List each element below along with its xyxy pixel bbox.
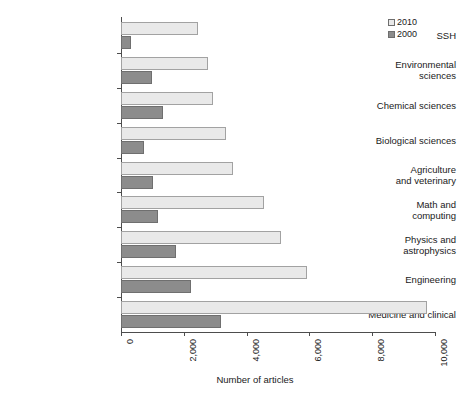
bar-2000-2 [121,71,152,84]
bar-2010-9 [121,301,427,314]
x-axis-line [121,332,435,333]
x-axis-tick-label-5: 8,000 [376,339,386,362]
bar-2010-4 [121,127,226,140]
bar-2010-3 [121,92,213,105]
x-axis-title: Number of articles [0,374,460,385]
bar-2010-7 [121,231,281,244]
x-axis-tick-5 [372,332,373,336]
x-axis-tick-label-1: 0 [125,339,135,344]
bar-2000-9 [121,315,221,328]
bar-2000-5 [121,176,153,189]
bar-2000-8 [121,280,191,293]
bar-2000-3 [121,106,163,119]
bar-2000-1 [121,36,131,49]
bar-2010-5 [121,162,233,175]
bar-2010-1 [121,22,198,35]
x-axis-tick-3 [247,332,248,336]
x-axis-tick-2 [184,332,185,336]
x-axis-tick-label-4: 6,000 [313,339,323,362]
x-axis-title-text: Number of articles [216,374,293,385]
bar-2010-2 [121,57,208,70]
bar-2010-8 [121,266,307,279]
bar-2000-7 [121,245,176,258]
plot-area [121,18,435,332]
x-axis-tick-1 [121,332,122,336]
x-axis-tick-label-2: 2,000 [188,339,198,362]
x-axis-tick-label-3: 4,000 [251,339,261,362]
bar-2000-4 [121,141,144,154]
bar-chart: 2010 2000 SSHEnvironmental sciencesChemi… [0,0,460,401]
bar-2010-6 [121,196,264,209]
x-axis-tick-label-6: 10,000 [439,339,449,367]
x-axis-tick-6 [435,332,436,336]
x-axis-tick-4 [309,332,310,336]
bar-2000-6 [121,210,158,223]
